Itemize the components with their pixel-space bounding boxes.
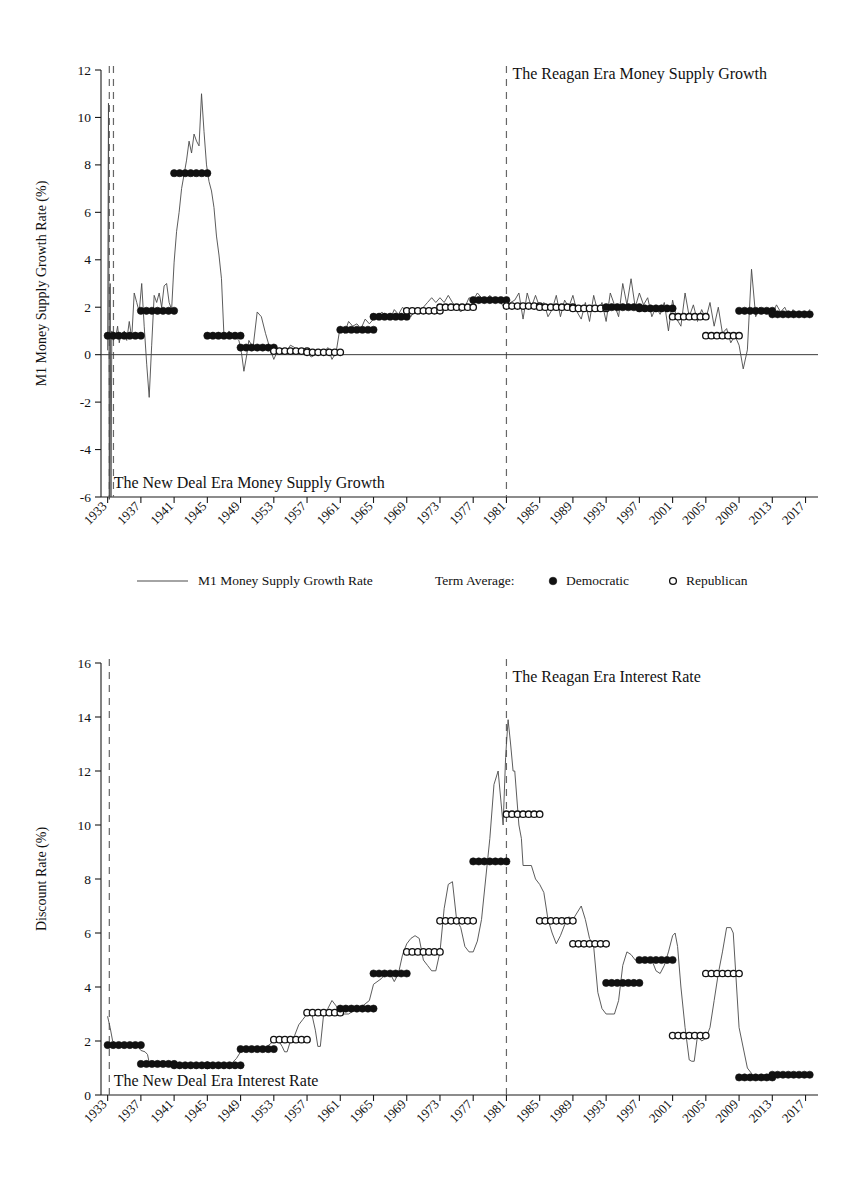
figure-container: -6-4-20246810121933193719411945194919531…: [0, 0, 845, 1178]
x-tick-label: 1949: [214, 1097, 243, 1126]
legend-label-republican: Republican: [686, 573, 748, 588]
term-average-marker-democratic: [137, 332, 144, 339]
x-tick-label: 2005: [679, 1097, 708, 1126]
y-tick-label: 2: [84, 300, 91, 315]
x-tick-label: 1993: [579, 1097, 608, 1126]
x-tick-label: 1997: [613, 498, 642, 527]
term-average-marker-democratic: [237, 332, 244, 339]
x-tick-label: 1961: [313, 499, 342, 528]
chart-annotation: The New Deal Era Money Supply Growth: [114, 474, 385, 492]
x-tick-label: 1985: [513, 1097, 542, 1126]
term-average-marker-republican: [703, 314, 709, 320]
series-line-discount-rate: [108, 720, 810, 1079]
term-average-marker-republican: [437, 949, 443, 955]
y-tick-label: 8: [84, 157, 91, 172]
y-tick-label: 10: [78, 110, 92, 125]
legend-label-m1-growth-rate: M1 Money Supply Growth Rate: [198, 573, 373, 588]
chart-panel-discount-rate: 0246810121416193319371941194519491953195…: [0, 640, 845, 1178]
discount-rate-svg: 0246810121416193319371941194519491953195…: [0, 640, 845, 1178]
term-average-marker-republican: [736, 332, 742, 338]
x-tick-label: 2001: [646, 499, 675, 528]
term-average-marker-republican: [536, 811, 542, 817]
term-average-marker-republican: [304, 1036, 310, 1042]
x-tick-label: 1977: [446, 1096, 475, 1125]
term-average-marker-democratic: [237, 1062, 244, 1069]
x-tick-label: 1937: [114, 498, 143, 527]
chart-annotation: The Reagan Era Interest Rate: [512, 668, 700, 686]
term-average-marker-republican: [736, 970, 742, 976]
term-average-marker-democratic: [669, 956, 676, 963]
term-average-marker-democratic: [806, 1071, 813, 1078]
x-tick-label: 1969: [380, 1097, 409, 1126]
term-average-marker-democratic: [204, 170, 211, 177]
x-tick-label: 2005: [679, 499, 708, 528]
series-line-m1-money-supply-growth-rate: [108, 94, 810, 500]
x-tick-label: 1965: [347, 1097, 376, 1126]
y-tick-label: 14: [78, 710, 92, 725]
x-tick-label: 1973: [413, 1097, 442, 1126]
x-tick-label: 1949: [214, 499, 243, 528]
chart-panel-money-supply-growth: -6-4-20246810121933193719411945194919531…: [0, 0, 845, 640]
y-axis-title: Discount Rate (%): [34, 827, 50, 932]
term-average-marker-democratic: [171, 307, 178, 314]
term-average-marker-republican: [570, 918, 576, 924]
term-average-marker-democratic: [503, 858, 510, 865]
x-tick-label: 2009: [712, 1097, 741, 1126]
term-average-marker-republican: [470, 304, 476, 310]
x-tick-label: 1945: [180, 499, 209, 528]
term-average-marker-democratic: [270, 1046, 277, 1053]
y-tick-label: 0: [84, 1088, 91, 1103]
term-average-marker-democratic: [137, 1041, 144, 1048]
y-tick-label: 12: [78, 63, 92, 78]
chart-annotation: The Reagan Era Money Supply Growth: [512, 65, 767, 83]
y-tick-label: 8: [84, 872, 91, 887]
x-tick-label: 1977: [446, 498, 475, 527]
term-average-marker-republican: [703, 1032, 709, 1038]
term-average-marker-democratic: [636, 979, 643, 986]
x-tick-label: 2009: [712, 499, 741, 528]
x-tick-label: 1965: [347, 499, 376, 528]
legend-republican-marker: [670, 578, 677, 585]
x-tick-label: 1981: [480, 1097, 509, 1126]
x-tick-label: 2017: [779, 498, 808, 527]
y-tick-label: -6: [80, 490, 91, 505]
x-tick-label: 1957: [280, 498, 309, 527]
y-tick-label: 4: [84, 252, 91, 267]
x-tick-label: 2001: [646, 1097, 675, 1126]
term-average-marker-democratic: [403, 970, 410, 977]
x-tick-label: 1953: [247, 499, 276, 528]
term-average-marker-democratic: [669, 305, 676, 312]
x-tick-label: 2013: [745, 499, 774, 528]
term-average-marker-democratic: [370, 1005, 377, 1012]
x-tick-label: 2013: [745, 1097, 774, 1126]
x-tick-label: 1941: [147, 499, 176, 528]
term-average-marker-democratic: [806, 311, 813, 318]
x-tick-label: 1941: [147, 1097, 176, 1126]
x-tick-label: 1985: [513, 499, 542, 528]
x-tick-label: 2017: [779, 1096, 808, 1125]
x-tick-label: 1961: [313, 1097, 342, 1126]
y-tick-label: 10: [78, 818, 92, 833]
y-tick-label: 12: [78, 764, 92, 779]
y-tick-label: 0: [84, 347, 91, 362]
x-tick-label: 1937: [114, 1096, 143, 1125]
y-axis-title: M1 Money Supply Growth Rate (%): [34, 180, 50, 386]
money-supply-growth-svg: -6-4-20246810121933193719411945194919531…: [0, 0, 845, 640]
y-tick-label: 6: [84, 205, 91, 220]
x-tick-label: 1989: [546, 499, 575, 528]
y-tick-label: 6: [84, 926, 91, 941]
y-tick-label: 2: [84, 1034, 91, 1049]
legend-democratic-marker: [549, 577, 557, 585]
chart-annotation: The New Deal Era Interest Rate: [114, 1072, 319, 1089]
legend-label-term-average: Term Average:: [435, 573, 514, 588]
y-tick-label: -2: [80, 395, 91, 410]
x-tick-label: 1973: [413, 499, 442, 528]
legend-label-democratic: Democratic: [566, 573, 629, 588]
x-tick-label: 1981: [480, 499, 509, 528]
x-tick-label: 1957: [280, 1096, 309, 1125]
y-tick-label: -4: [80, 442, 91, 457]
x-tick-label: 1969: [380, 499, 409, 528]
term-average-marker-republican: [603, 941, 609, 947]
x-tick-label: 1997: [613, 1096, 642, 1125]
x-tick-label: 1989: [546, 1097, 575, 1126]
